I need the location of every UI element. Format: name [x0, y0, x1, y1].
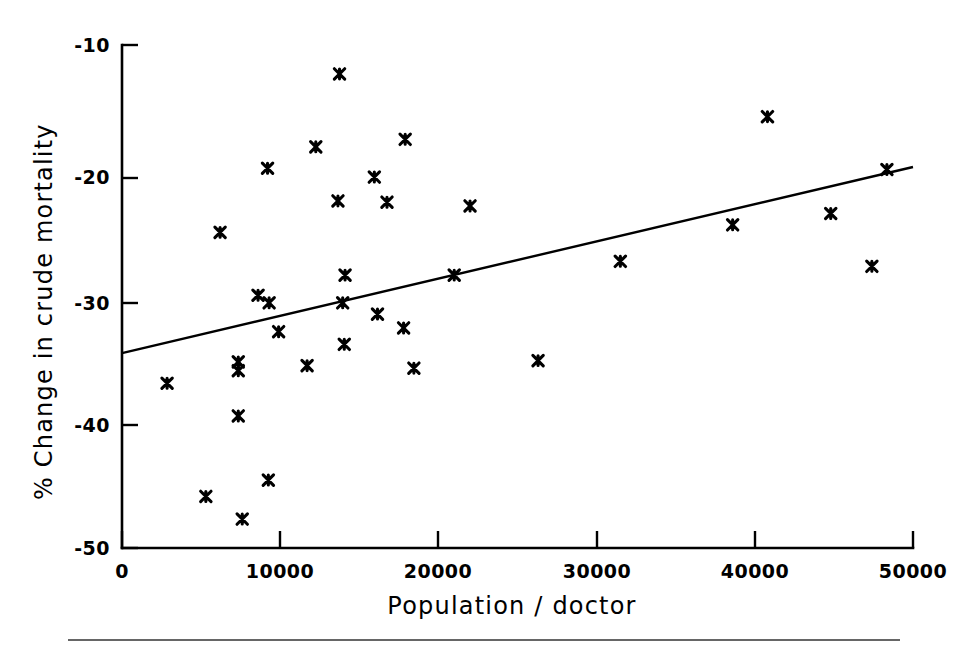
- data-point-marker: [533, 355, 543, 365]
- y-tick-label: -20: [74, 166, 110, 188]
- chart-figure: % Change in crude mortality -10 -20 -30 …: [0, 0, 970, 655]
- x-tick-label: 50000: [879, 560, 948, 582]
- data-point-marker: [882, 164, 892, 174]
- x-axis-ticks: [122, 531, 913, 548]
- data-point-marker: [762, 111, 772, 121]
- data-point-marker: [215, 227, 225, 237]
- data-point-marker: [727, 220, 737, 230]
- data-point-marker: [201, 491, 211, 501]
- data-point-marker: [273, 327, 283, 337]
- data-point-marker: [369, 172, 379, 182]
- data-point-marker: [233, 411, 243, 421]
- data-point-marker: [253, 290, 263, 300]
- data-point-marker: [302, 360, 312, 370]
- regression-line: [122, 167, 913, 353]
- y-tick-label: -30: [74, 292, 110, 314]
- y-tick-label: -10: [74, 34, 110, 56]
- data-point-marker: [237, 514, 247, 524]
- x-tick-labels: 0 10000 20000 30000 40000 50000: [115, 560, 947, 582]
- y-axis-title: % Change in crude mortality: [30, 123, 58, 500]
- y-axis-ticks: [122, 45, 138, 548]
- data-point-marker: [340, 270, 350, 280]
- x-tick-label: 10000: [246, 560, 315, 582]
- data-point-marker: [311, 142, 321, 152]
- data-point-marker: [339, 339, 349, 349]
- scatter-plot-svg: % Change in crude mortality -10 -20 -30 …: [0, 0, 970, 655]
- data-point-marker: [826, 208, 836, 218]
- y-tick-label: -50: [74, 537, 110, 559]
- data-point-group: [162, 69, 892, 525]
- data-point-marker: [233, 365, 243, 375]
- data-point-marker: [262, 163, 272, 173]
- data-point-marker: [334, 69, 344, 79]
- y-tick-label: -40: [74, 414, 110, 436]
- data-point-marker: [867, 261, 877, 271]
- data-point-marker: [615, 256, 625, 266]
- data-point-marker: [333, 196, 343, 206]
- data-point-marker: [382, 197, 392, 207]
- x-tick-label: 0: [115, 560, 129, 582]
- data-point-marker: [409, 363, 419, 373]
- y-tick-labels: -10 -20 -30 -40 -50: [74, 34, 110, 559]
- data-point-marker: [372, 309, 382, 319]
- data-point-marker: [465, 201, 475, 211]
- data-point-marker: [263, 475, 273, 485]
- x-tick-label: 20000: [404, 560, 473, 582]
- x-tick-label: 40000: [721, 560, 790, 582]
- data-point-marker: [264, 298, 274, 308]
- x-axis-title: Population / doctor: [387, 592, 636, 620]
- data-point-marker: [398, 323, 408, 333]
- data-point-marker: [162, 378, 172, 388]
- data-point-marker: [400, 134, 410, 144]
- x-tick-label: 30000: [563, 560, 632, 582]
